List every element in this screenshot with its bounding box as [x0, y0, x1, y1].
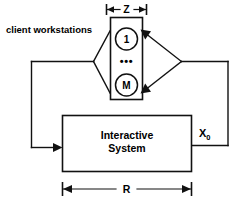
left-path-arrowhead [53, 143, 63, 152]
workstation-input-fan [141, 30, 229, 94]
workstation-node-last-label: M [122, 80, 130, 91]
z-dimension-label: Z [123, 3, 130, 15]
workstation-node-first-label: 1 [124, 34, 130, 45]
left-feedback-path [32, 62, 63, 153]
feedback-variable-label: X0 [199, 127, 211, 142]
diagram-canvas: Z client workstations 1 ••• M Interactiv… [0, 0, 243, 208]
workstation-ellipsis-label: ••• [120, 55, 133, 67]
r-left-arrowhead [63, 185, 72, 193]
r-right-arrowhead [182, 185, 191, 193]
z-left-arrowhead [107, 6, 114, 13]
client-workstations-label: client workstations [6, 24, 92, 35]
fan-right-upper-leg [145, 33, 182, 62]
z-right-arrowhead [139, 6, 146, 13]
diagram-svg: Z client workstations 1 ••• M Interactiv… [0, 0, 243, 208]
workstation-output-fan [32, 31, 111, 93]
feedback-variable-subscript: 0 [206, 133, 210, 142]
interactive-system-label-line1: Interactive [101, 129, 154, 141]
fan-left-lower-leg [94, 62, 111, 94]
fan-right-lower-leg [145, 62, 182, 91]
interactive-system-label-line2: System [108, 142, 145, 154]
r-dimension-label: R [123, 183, 131, 195]
fan-left-upper-leg [94, 31, 111, 62]
